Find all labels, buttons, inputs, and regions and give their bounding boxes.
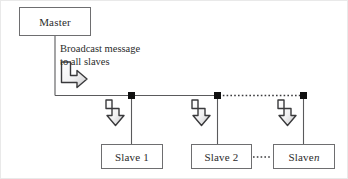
master-node-label: Master (39, 16, 71, 28)
node-marker-3 (300, 92, 307, 99)
slave-1-node-box: Slave 1 (101, 144, 163, 169)
broadcast-bus-diagram: Master Broadcast message to all slaves S… (0, 0, 348, 179)
slave-1-node-label: Slave 1 (115, 151, 149, 163)
broadcast-message-label: Broadcast message to all slaves (60, 42, 180, 68)
deliver-arrow-slave-2-icon (192, 100, 210, 126)
slave-2-node-box: Slave 2 (191, 144, 252, 169)
node-marker-2 (214, 92, 221, 99)
slave-n-index-label: n (314, 151, 320, 163)
master-node-box: Master (19, 7, 91, 36)
slave-2-node-label: Slave 2 (204, 151, 238, 163)
deliver-arrow-slave-1-icon (106, 100, 124, 126)
slave-n-node-box: Slave n (273, 144, 335, 169)
deliver-arrow-slave-n-icon (278, 100, 296, 126)
node-marker-1 (128, 92, 135, 99)
slave-n-node-label: Slave (288, 151, 313, 163)
